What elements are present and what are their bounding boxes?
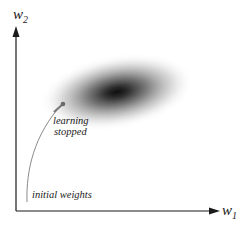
learning-stopped-label: learning stopped (53, 115, 89, 137)
x-axis-label-base: w (222, 202, 232, 218)
initial-weights-label: initial weights (32, 189, 92, 200)
x-axis (16, 208, 220, 215)
x-axis-label: w1 (222, 202, 237, 221)
y-axis-label-base: w (13, 6, 23, 22)
y-axis-label-subscript: 2 (23, 14, 28, 25)
x-axis-arrow-icon (209, 208, 220, 215)
learning-stopped-line2: stopped (53, 126, 89, 137)
y-axis-label: w2 (13, 6, 28, 25)
learning-stopped-line1: learning (53, 115, 89, 126)
x-axis-label-subscript: 1 (232, 210, 237, 221)
y-axis (13, 26, 20, 211)
y-axis-arrow-icon (13, 26, 20, 37)
